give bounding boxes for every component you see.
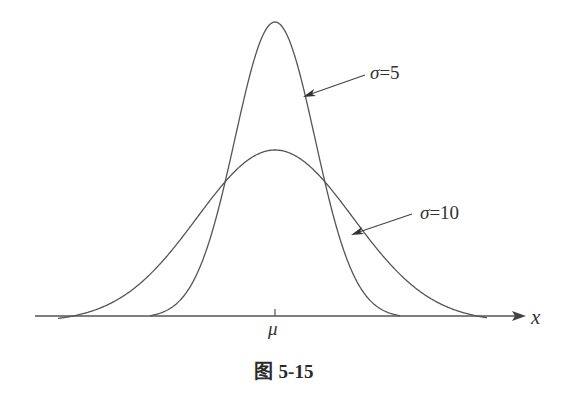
- sigma5-arrow-line: [308, 75, 365, 95]
- caption-prefix: 图: [254, 360, 273, 382]
- caption-number: 5-15: [279, 361, 314, 382]
- normal-distribution-chart: [0, 0, 567, 404]
- sigma5-label: σ=5: [370, 62, 400, 84]
- sigma5-value: =5: [379, 62, 399, 83]
- x-axis-label: x: [531, 305, 540, 330]
- sigma10-label: σ=10: [420, 202, 459, 224]
- sigma-symbol: σ: [370, 62, 379, 83]
- mu-label: μ: [268, 318, 278, 340]
- sigma-symbol: σ: [420, 202, 429, 223]
- curve-sigma-5: [150, 22, 400, 316]
- curve-sigma-10: [58, 150, 487, 318]
- figure-caption: 图5-15: [0, 356, 567, 383]
- sigma10-arrow-line: [356, 214, 412, 233]
- sigma10-value: =10: [429, 202, 459, 223]
